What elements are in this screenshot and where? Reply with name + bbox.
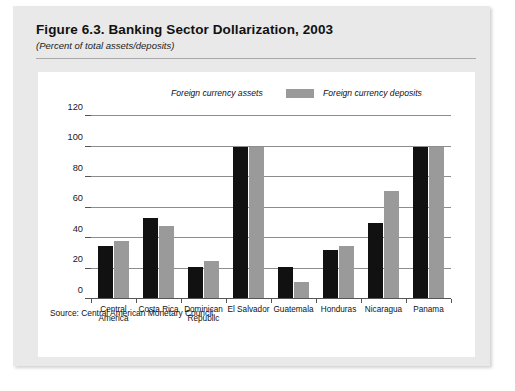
y-axis-tick-label: 120	[67, 102, 83, 112]
bar-deposits	[384, 191, 399, 299]
x-axis-tick-label: Nicaragua	[361, 305, 406, 314]
legend-swatch-assets	[134, 89, 162, 98]
y-axis-tick-label: 80	[73, 163, 83, 173]
x-axis-tick	[361, 299, 362, 303]
y-axis-tick-label: 20	[73, 254, 83, 264]
bar-assets	[98, 246, 113, 299]
bar-group: Central America	[91, 116, 136, 299]
figure-subtitle: (Percent of total assets/deposits)	[36, 40, 456, 51]
x-axis-tick-label: El Salvador	[226, 305, 271, 314]
legend-swatch-deposits	[286, 89, 314, 98]
legend-item-deposits: Foreign currency deposits	[286, 86, 422, 100]
bar-group: Dominican Republic	[181, 116, 226, 299]
y-axis-tick-label: 60	[73, 193, 83, 203]
bar-assets	[323, 250, 338, 299]
bar-deposits	[204, 261, 219, 299]
x-axis-tick	[316, 299, 317, 303]
bar-assets	[143, 218, 158, 299]
x-axis-tick	[226, 299, 227, 303]
figure-page: Figure 6.3. Banking Sector Dollarization…	[13, 6, 490, 366]
bar-deposits	[114, 241, 129, 299]
bar-assets	[368, 223, 383, 299]
bar-assets	[233, 147, 248, 300]
legend-label-deposits: Foreign currency deposits	[323, 88, 422, 98]
title-divider	[36, 58, 476, 59]
legend-item-assets: Foreign currency assets	[134, 86, 263, 100]
legend-label-assets: Foreign currency assets	[171, 88, 263, 98]
x-axis-tick	[451, 299, 452, 303]
bar-deposits	[294, 282, 309, 299]
bar-group: Honduras	[316, 116, 361, 299]
bar-deposits	[339, 246, 354, 299]
x-axis-line	[91, 298, 451, 299]
y-axis-tick-label: 0	[78, 285, 83, 295]
bar-deposits	[429, 147, 444, 300]
x-axis-tick-label: Panama	[406, 305, 451, 314]
bar-group: El Salvador	[226, 116, 271, 299]
bar-group: Guatemala	[271, 116, 316, 299]
x-axis-tick	[136, 299, 137, 303]
bar-deposits	[159, 226, 174, 299]
bar-deposits	[249, 147, 264, 300]
page-title: Figure 6.3. Banking Sector Dollarization…	[36, 22, 456, 37]
bar-group: Nicaragua	[361, 116, 406, 299]
source-note: Source: Central American Monetary Counci…	[50, 308, 215, 318]
y-axis-tick-label: 40	[73, 224, 83, 234]
bar-group: Costa Rica	[136, 116, 181, 299]
y-axis-tick-label: 100	[67, 132, 83, 142]
x-axis-tick-label: Honduras	[316, 305, 361, 314]
x-axis-tick	[91, 299, 92, 303]
x-axis-tick	[406, 299, 407, 303]
x-axis-tick	[181, 299, 182, 303]
bar-group: Panama	[406, 116, 451, 299]
x-axis-tick	[271, 299, 272, 303]
bar-assets	[188, 267, 203, 299]
chart-legend: Foreign currency assets Foreign currency…	[38, 86, 475, 100]
bar-assets	[278, 267, 293, 299]
bar-assets	[413, 147, 428, 300]
plot-area: 020406080100120 Central AmericaCosta Ric…	[91, 116, 451, 299]
x-axis-tick-label: Guatemala	[271, 305, 316, 314]
